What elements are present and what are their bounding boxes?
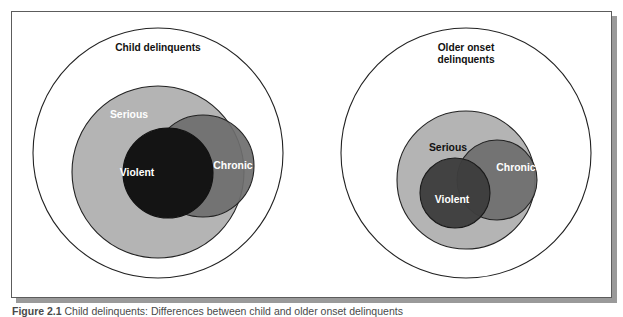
label-outer-child: Child delinquents bbox=[115, 42, 201, 53]
venn-diagram-canvas: Child delinquents Serious Chronic Violen… bbox=[11, 11, 612, 298]
diagram-child-delinquents: Child delinquents Serious Chronic Violen… bbox=[33, 28, 283, 278]
label-chronic-older: Chronic bbox=[496, 162, 535, 173]
label-violent-older: Violent bbox=[435, 194, 470, 205]
caption-text: Child delinquents: Differences between c… bbox=[65, 305, 403, 317]
diagram-older-onset-delinquents: Older onset delinquents Serious Chronic … bbox=[341, 28, 591, 278]
caption-label: Figure 2.1 bbox=[12, 305, 62, 317]
label-outer-older-line2: delinquents bbox=[437, 54, 494, 65]
label-serious-child: Serious bbox=[110, 109, 148, 120]
label-outer-older-line1: Older onset bbox=[438, 42, 495, 53]
label-violent-child: Violent bbox=[120, 167, 155, 178]
label-chronic-child: Chronic bbox=[213, 160, 252, 171]
figure-caption: Figure 2.1 Child delinquents: Difference… bbox=[12, 305, 612, 317]
circle-violent-older bbox=[420, 158, 490, 228]
label-serious-older: Serious bbox=[429, 142, 467, 153]
